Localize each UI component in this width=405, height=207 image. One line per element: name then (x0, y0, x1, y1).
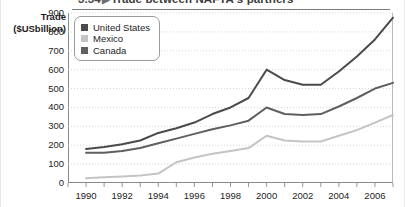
figure-number: 3.34 (78, 0, 101, 5)
x-axis-tick-label: 2004 (319, 190, 359, 201)
x-axis-tick-label: 1992 (102, 190, 142, 201)
legend-item-label: United States (93, 22, 150, 33)
y-axis-tick-label: 700 (4, 46, 64, 56)
square-swatch (81, 47, 88, 54)
y-axis-tick-label: 900 (4, 8, 64, 18)
figure-title-text: Trade between NAFTA's partners (111, 0, 294, 5)
x-axis-tick-label: 2006 (355, 190, 395, 201)
legend-item: Canada (81, 45, 150, 56)
square-swatch (81, 24, 88, 31)
y-axis-tick-label: 600 (4, 65, 64, 75)
x-axis-tick-label: 2000 (247, 190, 287, 201)
figure-arrow-icon: ▶ (101, 0, 111, 5)
x-axis-tick-label: 1990 (66, 190, 106, 201)
square-swatch (81, 35, 88, 42)
legend-item-label: Mexico (93, 33, 123, 44)
y-axis-tick-label: 200 (4, 140, 64, 150)
x-axis-tick-label: 2002 (283, 190, 323, 201)
y-axis-tick-label: 300 (4, 121, 64, 131)
x-axis-tick-label: 1998 (211, 190, 251, 201)
figure-title: 3.34▶Trade between NAFTA's partners (78, 0, 293, 5)
chart-figure: 3.34▶Trade between NAFTA's partners Trad… (0, 0, 405, 207)
y-axis-tick-label: 500 (4, 84, 64, 94)
x-axis-ticks (68, 183, 393, 187)
x-axis-tick-label: 1994 (138, 190, 178, 201)
legend-item-label: Canada (93, 45, 126, 56)
legend-item: Mexico (81, 33, 150, 44)
y-axis-tick-label: 400 (4, 102, 64, 112)
x-axis-tick-label: 1996 (174, 190, 214, 201)
title-divider (72, 9, 390, 10)
series-line-mexico (86, 115, 393, 178)
y-axis-tick-label: 800 (4, 27, 64, 37)
y-axis-tick-label: 100 (4, 159, 64, 169)
chart-legend: United StatesMexicoCanada (74, 16, 160, 61)
legend-item: United States (81, 22, 150, 33)
y-axis-tick-label: 0 (4, 178, 64, 188)
